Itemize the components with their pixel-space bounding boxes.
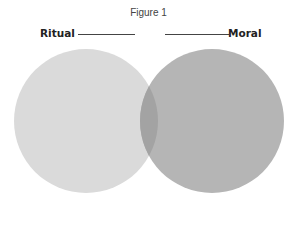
moral-label: Moral [228,27,262,39]
ritual-leader-line [78,34,135,35]
ritual-label: Ritual [40,27,75,39]
ritual-circle [14,49,158,193]
moral-circle [140,49,284,193]
moral-leader-line [165,34,229,35]
